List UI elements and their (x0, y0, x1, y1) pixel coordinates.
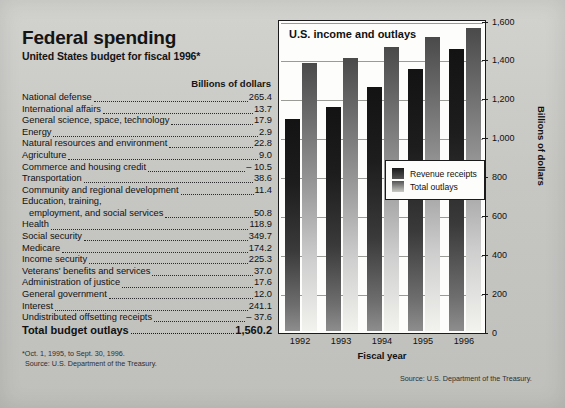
spending-item-name: Undistributed offsetting receipts (22, 312, 152, 324)
bar-revenue-receipts (367, 87, 383, 332)
spending-row: Education, training,employment, and soci… (22, 196, 272, 219)
y-axis-tick-label: 0 (488, 328, 497, 338)
spending-row: Undistributed offsetting receipts– 37.6 (22, 312, 272, 324)
leader-dots (122, 279, 253, 288)
spending-row: Veterans' benefits and services37.0 (22, 266, 272, 278)
leader-dots (109, 290, 253, 299)
spending-row: Medicare174.2 (22, 243, 272, 255)
spending-item-name: Natural resources and environment (22, 138, 167, 150)
leader-dots (103, 105, 253, 114)
tick-mark-icon (482, 294, 488, 295)
spending-row: Income security225.3 (22, 254, 272, 266)
y-axis-tick-label: 1,000 (488, 133, 515, 143)
spending-row: Transportation38.6 (22, 173, 272, 185)
leader-dots (171, 116, 253, 125)
bar-revenue-receipts (326, 107, 342, 331)
spending-row: Natural resources and environment22.8 (22, 138, 272, 150)
bar-revenue-receipts (408, 69, 424, 332)
spending-item-name: International affairs (22, 104, 101, 116)
total-label: Total budget outlays (22, 325, 129, 337)
tick-mark-icon (482, 22, 488, 23)
spending-item-value: 12.0 (254, 289, 272, 301)
spending-item-value: 265.4 (249, 92, 272, 104)
x-axis-tick-label: 1995 (413, 336, 433, 346)
leader-dots (51, 221, 249, 230)
x-axis-tick-label: 1992 (290, 336, 310, 346)
y-axis-tick: 600 (488, 211, 507, 221)
spending-item-name: Veterans' benefits and services (22, 266, 150, 278)
tick-mark-icon (482, 216, 488, 217)
leader-dots (131, 325, 235, 334)
bar-total-outlays (343, 58, 359, 332)
spending-row: Interest241.1 (22, 301, 272, 313)
spending-row: Administration of justice17.6 (22, 277, 272, 289)
spending-item-name: Health (22, 219, 49, 231)
spending-row: Energy2.9 (22, 127, 272, 139)
total-budget-outlays-row: Total budget outlays1,560.2 (22, 325, 272, 337)
leader-dots (68, 151, 258, 160)
leader-dots (148, 163, 245, 172)
spending-item-value: 2.9 (259, 127, 272, 139)
page-title: Federal spending (22, 28, 272, 48)
x-axis-ticks: 19921993199419951996 (278, 336, 486, 350)
footnote-period: *Oct. 1, 1995, to Sept. 30, 1996. (22, 349, 272, 359)
spending-item-name: General science, space, technology (22, 115, 169, 127)
spending-item-value: 17.6 (254, 277, 272, 289)
spending-item-name: National defense (22, 92, 92, 104)
leader-dots (89, 255, 248, 264)
federal-spending-panel: Federal spending United States budget fo… (22, 28, 272, 369)
spending-row: International affairs13.7 (22, 104, 272, 116)
y-axis-tick-label: 800 (488, 172, 507, 182)
spending-row: General government12.0 (22, 289, 272, 301)
bar-revenue-receipts (285, 119, 301, 331)
infographic-page: Federal spending United States budget fo… (0, 0, 565, 408)
spending-row: Community and regional development11.4 (22, 185, 272, 197)
y-axis-tick: 800 (488, 172, 507, 182)
leader-dots (53, 128, 258, 137)
leader-dots (84, 174, 253, 183)
units-header: Billions of dollars (22, 78, 272, 89)
x-axis-tick-label: 1996 (454, 336, 474, 346)
leader-dots (55, 302, 248, 311)
page-subtitle: United States budget for fiscal 1996* (22, 50, 272, 62)
spending-row: Health118.9 (22, 219, 272, 231)
legend-label-outlays: Total outlays (410, 182, 458, 192)
footnote-block: *Oct. 1, 1995, to Sept. 30, 1996. Source… (22, 349, 272, 369)
x-axis-tick-label: 1994 (372, 336, 392, 346)
tick-mark-icon (482, 333, 488, 334)
tick-mark-icon (482, 138, 488, 139)
spending-item-value: 225.3 (249, 254, 272, 266)
leader-dots (94, 93, 248, 102)
x-axis-tick-label: 1993 (331, 336, 351, 346)
spending-item-name: Interest (22, 301, 53, 313)
income-outlays-chart: U.S. income and outlays 02004006008001,0… (278, 20, 508, 342)
spending-item-name: Agriculture (22, 150, 66, 162)
legend-swatch-outlays-icon (392, 181, 404, 192)
spending-item-value: 118.9 (249, 219, 272, 231)
spending-item-value: – 37.6 (246, 312, 272, 324)
spending-item-value: 37.0 (254, 266, 272, 278)
y-axis-tick: 400 (488, 250, 507, 260)
spending-item-name: Education, training, (22, 196, 272, 208)
spending-item-name: Administration of justice (22, 277, 120, 289)
legend-item-outlays: Total outlays (392, 181, 477, 192)
bar-group (281, 23, 322, 332)
leader-dots (154, 313, 245, 322)
chart-legend: Revenue receipts Total outlays (385, 160, 485, 200)
spending-item-value: 11.4 (255, 185, 272, 197)
spending-item-value: 38.6 (254, 173, 272, 185)
y-axis-tick-label: 200 (488, 289, 507, 299)
y-axis-tick-label: 1,200 (488, 94, 515, 104)
y-axis-tick: 1,400 (488, 55, 515, 65)
tick-mark-icon (482, 99, 488, 100)
spending-item-name: Transportation (22, 173, 82, 185)
spending-item-value: 17.9 (254, 115, 272, 127)
bar-total-outlays (302, 63, 318, 331)
y-axis-tick-label: 1,600 (488, 17, 515, 27)
y-axis-tick-label: 400 (488, 250, 507, 260)
spending-item-value: 241.1 (249, 301, 272, 313)
spending-row: Commerce and housing credit– 10.5 (22, 162, 272, 174)
spending-item-name: Social security (22, 231, 82, 243)
leader-dots (62, 244, 247, 253)
spending-item-value: 22.8 (254, 138, 272, 150)
